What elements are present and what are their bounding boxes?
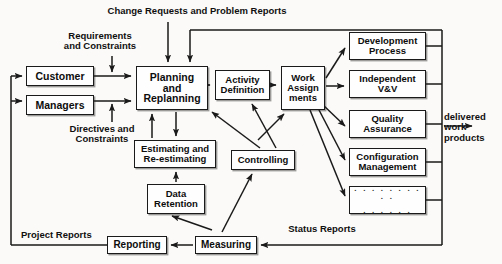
label-project-reports: Project Reports (21, 230, 111, 240)
box-work-assignments[interactable]: Work Assign ments (281, 66, 325, 110)
box-more-processes[interactable]: . . . . . . . . . . . . . . . . (349, 186, 426, 214)
box-configuration-management[interactable]: Configuration Management (349, 148, 426, 176)
ellipsis-row-2: . . . . . . (363, 207, 412, 215)
diagram-canvas: Customer Managers Planning and Replannin… (0, 0, 502, 264)
box-measuring[interactable]: Measuring (195, 236, 257, 254)
box-planning-and-replanning[interactable]: Planning and Replanning (136, 66, 208, 110)
label-requirements-and-constraints: Requirements and Constraints (50, 31, 150, 52)
box-managers[interactable]: Managers (26, 95, 94, 115)
box-reporting[interactable]: Reporting (107, 236, 167, 254)
label-delivered-work-products: delivered work products (444, 112, 502, 143)
ellipsis-row-1: . . . . . . . . . . (350, 185, 425, 201)
box-independent-vv[interactable]: Independent V&V (349, 70, 426, 98)
box-activity-definition[interactable]: Activity Definition (215, 70, 270, 100)
box-quality-assurance[interactable]: Quality Assurance (349, 110, 426, 138)
box-data-retention[interactable]: Data Retention (147, 184, 205, 214)
box-controlling[interactable]: Controlling (231, 150, 295, 170)
box-development-process[interactable]: Development Process (349, 32, 426, 60)
box-customer[interactable]: Customer (26, 66, 94, 86)
label-directives-and-constraints: Directives and Constraints (54, 124, 150, 145)
label-change-requests-and-problem-reports: Change Requests and Problem Reports (72, 6, 322, 16)
label-status-reports: Status Reports (277, 224, 367, 234)
